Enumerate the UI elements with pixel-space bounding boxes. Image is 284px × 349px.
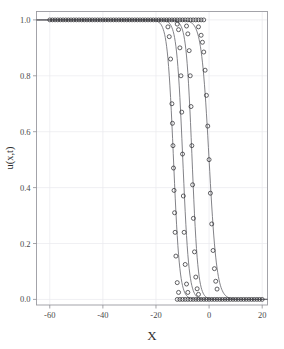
y-tick-label: 0.6 (20, 127, 31, 137)
x-tick-label: 20 (258, 310, 267, 320)
x-tick-label: -20 (150, 310, 161, 320)
y-axis-title: u(x,t) (4, 146, 16, 170)
x-tick-label: -40 (97, 310, 108, 320)
y-tick-label: 0.4 (20, 183, 31, 193)
y-tick-label: 0.2 (20, 239, 31, 249)
y-tick-label: 0.0 (20, 294, 31, 304)
y-tick-label: 0.8 (20, 71, 31, 81)
chart-background (0, 0, 284, 349)
x-axis-title: X (147, 328, 157, 343)
traveling-wave-plot: -60-40-20020 0.00.20.40.60.81.0 X u(x,t) (0, 0, 284, 349)
x-tick-label: 0 (207, 310, 211, 320)
x-tick-label: -60 (44, 310, 55, 320)
y-tick-label: 1.0 (20, 15, 31, 25)
chart-figure: -60-40-20020 0.00.20.40.60.81.0 X u(x,t) (0, 0, 284, 349)
